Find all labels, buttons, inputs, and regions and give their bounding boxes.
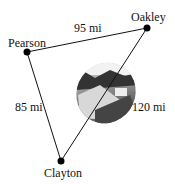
distance-label-pearson-clayton: 85 mi (15, 101, 43, 113)
town-label-oakley: Oakley (131, 11, 166, 23)
town-label-clayton: Clayton (44, 167, 82, 179)
triangle-map-diagram: Oakley Pearson Clayton 95 mi 85 mi 120 m… (0, 0, 175, 184)
distance-label-clayton-oakley: 120 mi (132, 101, 166, 113)
distance-label-pearson-oakley: 95 mi (74, 22, 102, 34)
town-label-pearson: Pearson (8, 37, 46, 49)
landscape-photo (64, 51, 150, 135)
town-dot-clayton (58, 158, 65, 165)
town-dot-oakley (144, 25, 151, 32)
